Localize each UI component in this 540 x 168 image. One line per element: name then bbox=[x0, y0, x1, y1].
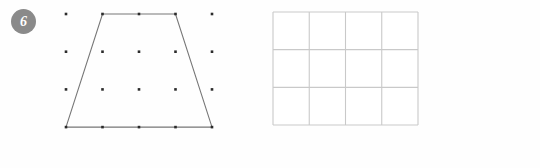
dot-grid-svg bbox=[0, 0, 265, 168]
grid-dot bbox=[138, 50, 141, 53]
grid-dot bbox=[65, 126, 68, 129]
grid-dot bbox=[211, 126, 214, 129]
grid-dot bbox=[101, 13, 104, 16]
dot-grid-figure bbox=[0, 0, 265, 168]
grid-dot bbox=[138, 126, 141, 129]
grid-dot bbox=[65, 50, 68, 53]
trapezoid-group bbox=[66, 14, 212, 127]
grid-dot bbox=[101, 88, 104, 91]
rectangle-grid-svg bbox=[265, 0, 540, 168]
grid-dot bbox=[138, 13, 141, 16]
grid-dot bbox=[211, 50, 214, 53]
grid-dot bbox=[174, 126, 177, 129]
grid-dot bbox=[174, 13, 177, 16]
grid-dot bbox=[101, 126, 104, 129]
rectangle-grid-figure bbox=[265, 0, 540, 168]
grid-dot bbox=[138, 88, 141, 91]
grid-lines-group bbox=[273, 12, 418, 125]
grid-dot bbox=[211, 13, 214, 16]
grid-dot bbox=[65, 13, 68, 16]
grid-dot bbox=[174, 50, 177, 53]
worksheet-page: 6 bbox=[0, 0, 540, 168]
grid-dot bbox=[101, 50, 104, 53]
grid-dot bbox=[65, 88, 68, 91]
trapezoid-shape bbox=[66, 14, 212, 127]
grid-dot bbox=[174, 88, 177, 91]
dots-group bbox=[65, 13, 214, 129]
grid-dot bbox=[211, 88, 214, 91]
